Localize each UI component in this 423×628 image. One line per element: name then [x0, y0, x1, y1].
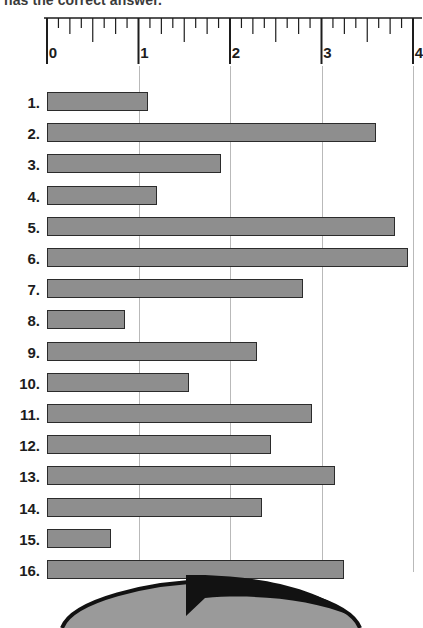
bar	[47, 310, 125, 329]
bar	[47, 123, 376, 142]
bar-row-label: 15.	[0, 531, 40, 548]
bar-row: 15.	[0, 527, 422, 558]
bar-row: 8.	[0, 308, 422, 339]
bar-row: 4.	[0, 184, 422, 215]
ruler-tick-label: 3	[323, 44, 331, 61]
bar	[47, 248, 408, 267]
ruler-tick-label: 0	[49, 44, 57, 61]
bar-row-label: 5.	[0, 219, 40, 236]
bar-row: 1.	[0, 90, 422, 121]
bar-row: 12.	[0, 433, 422, 464]
bar	[47, 279, 303, 298]
bar	[47, 529, 111, 548]
ruler-tick-label: 1	[140, 44, 148, 61]
bar-row: 3.	[0, 152, 422, 183]
ruler-axis: 01234	[0, 14, 422, 66]
bar-row: 7.	[0, 277, 422, 308]
bar-row-label: 12.	[0, 437, 40, 454]
chart-bars: 1.2.3.4.5.6.7.8.9.10.11.12.13.14.15.16.	[0, 66, 422, 572]
bar	[47, 342, 257, 361]
bar-row: 6.	[0, 246, 422, 277]
page-heading: has the correct answer.	[4, 0, 162, 8]
bar	[47, 404, 312, 423]
bar-row-label: 14.	[0, 500, 40, 517]
bar	[47, 154, 221, 173]
bar-row-label: 2.	[0, 125, 40, 142]
bar-row: 13.	[0, 464, 422, 495]
bar	[47, 373, 189, 392]
bar-row: 10.	[0, 371, 422, 402]
bar	[47, 92, 148, 111]
ruler-svg	[0, 14, 422, 66]
bar-row: 5.	[0, 215, 422, 246]
bar-chart: 1.2.3.4.5.6.7.8.9.10.11.12.13.14.15.16.	[0, 66, 422, 572]
bar-row-label: 6.	[0, 250, 40, 267]
bar-row-label: 4.	[0, 188, 40, 205]
ruler-tick-label: 2	[232, 44, 240, 61]
bar-row: 9.	[0, 340, 422, 371]
bar-row-label: 3.	[0, 156, 40, 173]
bar-row: 2.	[0, 121, 422, 152]
bar	[47, 435, 271, 454]
bar-row-label: 13.	[0, 468, 40, 485]
bar-row-label: 9.	[0, 344, 40, 361]
bar	[47, 186, 157, 205]
bar	[47, 498, 262, 517]
page-heading-clip: has the correct answer.	[0, 0, 422, 11]
bar-row-label: 10.	[0, 375, 40, 392]
illustration-svg	[0, 572, 422, 628]
bar	[47, 466, 335, 485]
bar-row-label: 11.	[0, 406, 40, 423]
ruler-tick-label: 4	[415, 44, 423, 61]
bar-row: 14.	[0, 496, 422, 527]
bar-row-label: 1.	[0, 94, 40, 111]
arrow-over-ellipse-illustration	[0, 572, 422, 628]
bar-row: 11.	[0, 402, 422, 433]
bar-row-label: 8.	[0, 312, 40, 329]
bar	[47, 217, 395, 236]
bar-row-label: 7.	[0, 281, 40, 298]
